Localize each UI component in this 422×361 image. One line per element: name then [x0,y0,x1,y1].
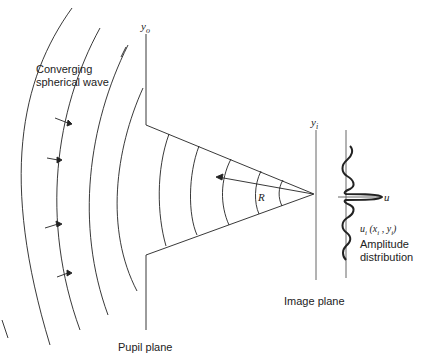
wave-label-line1: Converging [36,63,109,76]
wave-label: Converging spherical wave [36,63,109,89]
amplitude-formula: ui (xi , yi) [360,223,396,237]
amplitude-label-line2: distribution [360,251,413,264]
diagram-graphics [0,0,422,361]
image-axis-label: yi [311,116,318,131]
optics-diagram: Converging spherical wave yo yi R u ui (… [0,0,422,361]
radius-label: R [258,191,265,203]
wavefront-left-fragment [2,320,8,338]
amplitude-label-line1: Amplitude [360,238,413,251]
pupil-axis-label: yo [141,20,150,35]
image-plane-label: Image plane [284,295,345,308]
wavefront-1 [21,8,72,345]
amplitude-label: Amplitude distribution [360,238,413,264]
wavefront-5-fragment [121,47,126,57]
wavefront-4 [117,88,143,291]
wave-label-line2: spherical wave [36,76,109,89]
pupil-plane-label: Pupil plane [118,341,172,354]
u-axis-label: u [384,191,390,203]
